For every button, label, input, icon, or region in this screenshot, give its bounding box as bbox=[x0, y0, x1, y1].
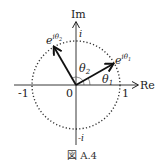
re-axis-label: Re bbox=[140, 79, 155, 92]
tick-label-i: i bbox=[79, 28, 82, 39]
tick-label-minus-1: -1 bbox=[18, 87, 29, 100]
figure-caption: 図 A.4 bbox=[0, 147, 164, 162]
im-axis-label: Im bbox=[71, 8, 86, 21]
vector-e-i-theta2 bbox=[54, 47, 76, 85]
angle-arc-theta1 bbox=[88, 78, 90, 85]
origin-label: 0 bbox=[66, 87, 73, 100]
angle-label-theta2: θ2 bbox=[79, 62, 91, 76]
tick-label-minus-i: -i bbox=[78, 133, 84, 143]
tick-label-1: 1 bbox=[122, 87, 129, 100]
vector-label-e-i-theta1: eiθ1 bbox=[115, 53, 131, 67]
complex-plane-diagram: Im Re 0 -1 1 i -i eiθ2 eiθ1 θ2 θ1 bbox=[0, 0, 164, 167]
vector-label-e-i-theta2: eiθ2 bbox=[46, 33, 62, 47]
angle-label-theta1: θ1 bbox=[102, 73, 113, 87]
